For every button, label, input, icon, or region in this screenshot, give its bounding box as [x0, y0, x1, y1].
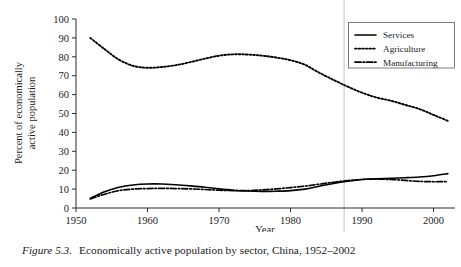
x-tick-label: 1990	[352, 215, 373, 226]
chart-plot-area: 0102030405060708090100 19501960197019801…	[0, 0, 461, 232]
y-tick-label: 80	[59, 52, 70, 63]
chart-legend: ServicesAgricultureManufacturing	[349, 23, 455, 69]
y-axis-ticks: 0102030405060708090100	[53, 14, 76, 214]
x-tick-label: 1950	[66, 215, 87, 226]
y-tick-label: 20	[59, 165, 70, 176]
legend-label-services: Services	[383, 30, 415, 40]
x-tick-label: 2000	[423, 215, 444, 226]
y-tick-label: 70	[59, 70, 70, 81]
y-tick-label: 100	[53, 14, 69, 25]
figure-caption-text: Economically active population by sector…	[79, 244, 355, 256]
y-tick-label: 40	[59, 127, 70, 138]
y-axis-title-line2: active population	[26, 76, 37, 149]
x-axis-ticks: 195019601970198019902000	[66, 208, 445, 226]
y-tick-label: 60	[59, 89, 70, 100]
y-axis-title: Percent of economically active populatio…	[13, 61, 37, 164]
y-tick-label: 10	[59, 184, 70, 195]
figure-number: Figure 5.3.	[22, 244, 72, 256]
y-tick-label: 50	[59, 108, 70, 119]
x-tick-label: 1980	[280, 215, 301, 226]
figure-caption: Figure 5.3.Economically active populatio…	[22, 243, 442, 257]
series-line-services	[90, 174, 448, 199]
x-axis-title: Year	[255, 224, 275, 232]
x-tick-label: 1970	[209, 215, 230, 226]
y-tick-label: 30	[59, 146, 70, 157]
y-axis-title-line1: Percent of economically	[13, 61, 24, 164]
series-line-manufacturing	[90, 179, 448, 199]
x-tick-label: 1960	[137, 215, 158, 226]
y-tick-label: 0	[64, 203, 69, 214]
figure-container: 0102030405060708090100 19501960197019801…	[0, 0, 461, 267]
y-tick-label: 90	[59, 33, 70, 44]
legend-label-manufacturing: Manufacturing	[383, 58, 438, 68]
line-chart: 0102030405060708090100 19501960197019801…	[0, 0, 461, 232]
legend-label-agriculture: Agriculture	[383, 44, 425, 54]
